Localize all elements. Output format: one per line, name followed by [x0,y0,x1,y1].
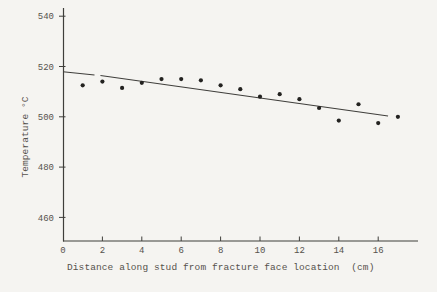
x-tick-label: 12 [294,246,305,256]
y-tick-label: 480 [38,163,54,173]
chart-canvas: 5405205004804600246810121416 [0,0,437,292]
x-tick-label: 4 [139,246,144,256]
data-point [396,115,400,119]
data-point [120,86,124,90]
y-tick-label: 540 [38,12,54,22]
x-tick-label: 10 [255,246,266,256]
data-point [219,83,223,87]
data-point [100,79,104,83]
data-point [356,102,360,106]
x-tick-label: 8 [218,246,223,256]
scatter-plot-figure: 5405205004804600246810121416 Temperature… [0,0,437,292]
data-point [81,83,85,87]
data-point [140,81,144,85]
x-tick-label: 16 [373,246,384,256]
data-point [317,106,321,110]
x-axis-title: Distance along stud from fracture face l… [67,262,374,273]
y-axis-title: Temperature °C [20,96,31,177]
y-tick-label: 460 [38,214,54,224]
data-point [258,95,262,99]
data-point [278,92,282,96]
x-tick-label: 2 [100,246,105,256]
data-point [199,78,203,82]
data-point [159,77,163,81]
y-tick-label: 500 [38,113,54,123]
x-tick-label: 6 [178,246,183,256]
data-point [337,118,341,122]
data-point [297,97,301,101]
data-point [238,87,242,91]
y-tick-label: 520 [38,63,54,73]
data-point [376,121,380,125]
trend-line-segment [63,72,95,75]
data-point [179,77,183,81]
x-tick-label: 14 [333,246,344,256]
x-tick-label: 0 [60,246,65,256]
trend-line-segment [100,76,388,116]
